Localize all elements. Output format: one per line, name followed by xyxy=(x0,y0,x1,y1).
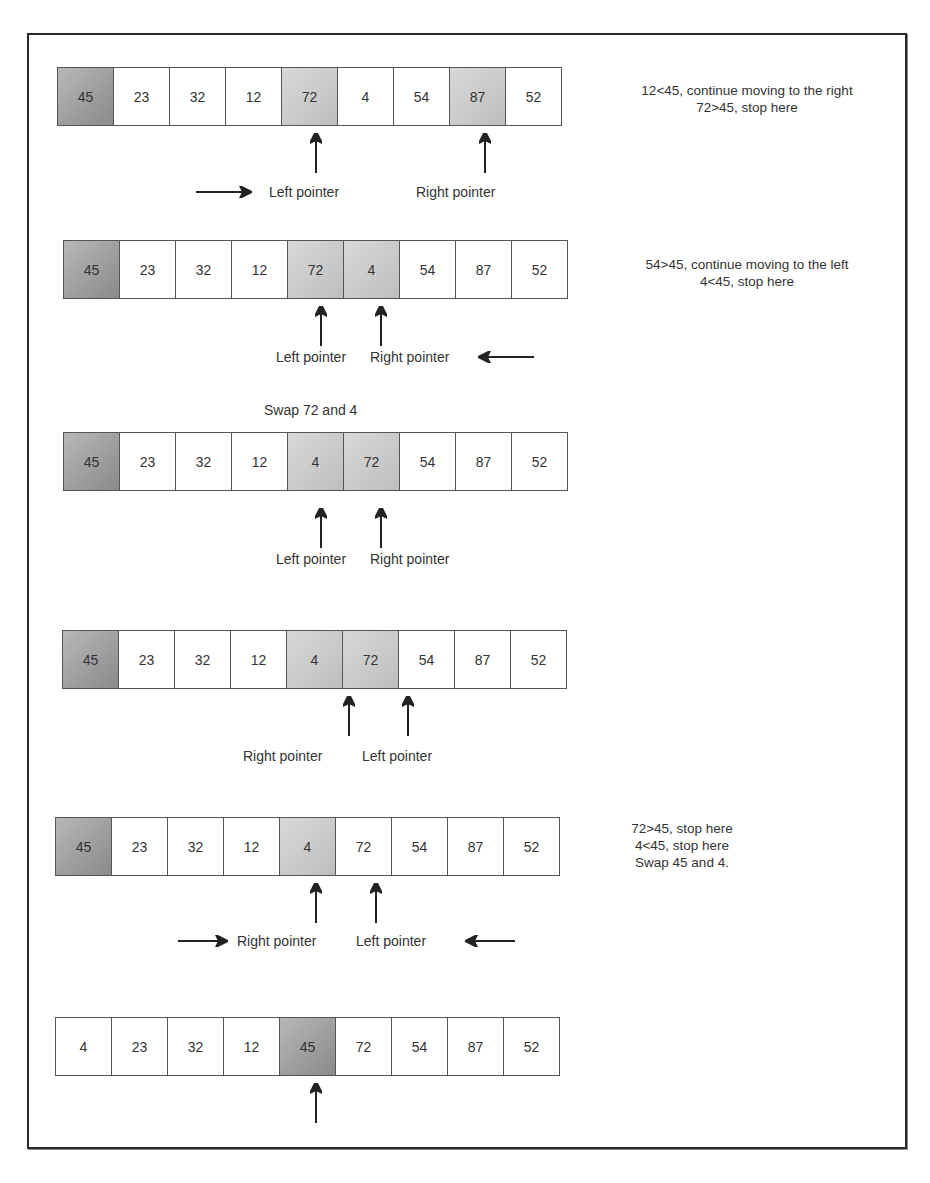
array-cell: 12 xyxy=(226,68,282,125)
right-pointer-label: Right pointer xyxy=(243,748,322,764)
note-line: 72>45, stop here xyxy=(592,820,772,837)
diagram-frame xyxy=(27,33,907,1149)
array-cell: 12 xyxy=(224,1018,280,1075)
array-cell: 23 xyxy=(120,433,176,490)
array-row-step-4: 45 23 32 12 4 72 54 87 52 xyxy=(62,630,567,689)
array-cell: 52 xyxy=(506,68,562,125)
up-arrow-icon xyxy=(343,696,355,736)
swap-caption: Swap 72 and 4 xyxy=(264,402,357,418)
note-line: 72>45, stop here xyxy=(612,99,882,116)
array-cell: 72 xyxy=(336,1018,392,1075)
array-cell: 23 xyxy=(119,631,175,688)
left-pointer-label: Left pointer xyxy=(362,748,432,764)
left-pointer-label: Left pointer xyxy=(356,933,426,949)
up-arrow-icon xyxy=(310,133,322,173)
array-cell: 4 xyxy=(344,241,400,298)
array-cell: 52 xyxy=(512,433,568,490)
note-line: 4<45, stop here xyxy=(612,273,882,290)
note-line: 54>45, continue moving to the left xyxy=(612,256,882,273)
up-arrow-icon xyxy=(310,883,322,923)
up-arrow-icon xyxy=(370,883,382,923)
array-cell: 23 xyxy=(112,1018,168,1075)
array-row-step-3: 45 23 32 12 4 72 54 87 52 xyxy=(63,432,568,491)
up-arrow-icon xyxy=(375,306,387,346)
array-cell: 12 xyxy=(224,818,280,875)
array-cell: 72 xyxy=(336,818,392,875)
array-cell: 87 xyxy=(456,241,512,298)
right-pointer-label: Right pointer xyxy=(370,551,449,567)
array-cell: 54 xyxy=(392,818,448,875)
array-cell: 23 xyxy=(114,68,170,125)
left-arrow-icon xyxy=(478,351,534,363)
right-arrow-icon xyxy=(196,186,252,198)
array-cell: 32 xyxy=(176,241,232,298)
array-cell: 4 xyxy=(338,68,394,125)
array-cell: 45 xyxy=(64,241,120,298)
array-cell: 32 xyxy=(168,1018,224,1075)
array-cell: 54 xyxy=(392,1018,448,1075)
array-cell: 52 xyxy=(511,631,567,688)
step-note: 12<45, continue moving to the right 72>4… xyxy=(612,82,882,116)
array-cell: 45 xyxy=(58,68,114,125)
array-cell: 32 xyxy=(176,433,232,490)
left-pointer-label: Left pointer xyxy=(276,551,346,567)
array-cell: 23 xyxy=(120,241,176,298)
right-pointer-label: Right pointer xyxy=(370,349,449,365)
array-cell: 32 xyxy=(170,68,226,125)
array-cell: 54 xyxy=(400,241,456,298)
up-arrow-icon xyxy=(310,1083,322,1123)
array-cell: 72 xyxy=(343,631,399,688)
array-cell: 54 xyxy=(394,68,450,125)
array-cell: 72 xyxy=(288,241,344,298)
note-line: Swap 45 and 4. xyxy=(592,854,772,871)
array-cell: 52 xyxy=(504,818,560,875)
array-cell: 54 xyxy=(400,433,456,490)
array-row-step-5: 45 23 32 12 4 72 54 87 52 xyxy=(55,817,560,876)
array-cell: 45 xyxy=(64,433,120,490)
up-arrow-icon xyxy=(479,133,491,173)
array-cell: 32 xyxy=(175,631,231,688)
right-pointer-label: Right pointer xyxy=(416,184,495,200)
array-cell: 4 xyxy=(56,1018,112,1075)
array-cell: 87 xyxy=(448,818,504,875)
array-cell: 87 xyxy=(455,631,511,688)
array-cell: 72 xyxy=(282,68,338,125)
right-arrow-icon xyxy=(178,935,228,947)
array-cell: 12 xyxy=(232,433,288,490)
note-line: 4<45, stop here xyxy=(592,837,772,854)
array-row-step-2: 45 23 32 12 72 4 54 87 52 xyxy=(63,240,568,299)
array-cell: 52 xyxy=(504,1018,560,1075)
array-cell: 87 xyxy=(456,433,512,490)
array-cell: 45 xyxy=(280,1018,336,1075)
array-cell: 12 xyxy=(232,241,288,298)
array-cell: 52 xyxy=(512,241,568,298)
right-pointer-label: Right pointer xyxy=(237,933,316,949)
up-arrow-icon xyxy=(315,508,327,548)
array-cell: 72 xyxy=(344,433,400,490)
step-note: 54>45, continue moving to the left 4<45,… xyxy=(612,256,882,290)
array-cell: 45 xyxy=(56,818,112,875)
array-row-step-6: 4 23 32 12 45 72 54 87 52 xyxy=(55,1017,560,1076)
step-note: 72>45, stop here 4<45, stop here Swap 45… xyxy=(592,820,772,871)
array-cell: 12 xyxy=(231,631,287,688)
array-cell: 87 xyxy=(448,1018,504,1075)
up-arrow-icon xyxy=(402,696,414,736)
array-cell: 4 xyxy=(288,433,344,490)
array-cell: 4 xyxy=(287,631,343,688)
array-row-step-1: 45 23 32 12 72 4 54 87 52 xyxy=(57,67,562,126)
left-pointer-label: Left pointer xyxy=(276,349,346,365)
left-arrow-icon xyxy=(465,935,515,947)
array-cell: 87 xyxy=(450,68,506,125)
up-arrow-icon xyxy=(315,306,327,346)
left-pointer-label: Left pointer xyxy=(269,184,339,200)
array-cell: 32 xyxy=(168,818,224,875)
up-arrow-icon xyxy=(375,508,387,548)
array-cell: 54 xyxy=(399,631,455,688)
array-cell: 23 xyxy=(112,818,168,875)
array-cell: 4 xyxy=(280,818,336,875)
note-line: 12<45, continue moving to the right xyxy=(612,82,882,99)
array-cell: 45 xyxy=(63,631,119,688)
